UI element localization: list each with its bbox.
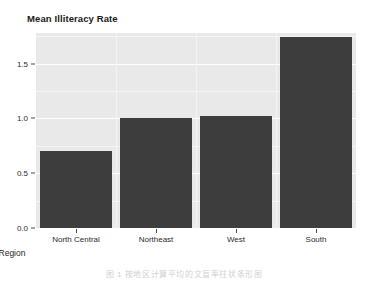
plot-panel [36, 33, 356, 228]
figure-caption: 图 1 按地区计算平均的文盲率柱状条形图 [0, 268, 368, 282]
y-tick-mark [31, 228, 35, 229]
x-tick-mark [236, 229, 237, 233]
bar-south[interactable] [280, 37, 352, 228]
y-tick-mark [31, 118, 35, 119]
x-tick-label: South [306, 235, 327, 244]
y-tick-label: 1.5 [17, 59, 28, 68]
x-tick-mark [316, 229, 317, 233]
y-tick-mark [31, 173, 35, 174]
y-tick-label: 0.0 [17, 224, 28, 233]
x-tick-label: West [227, 235, 245, 244]
x-tick-mark [76, 229, 77, 233]
y-tick-mark [31, 63, 35, 64]
gridline-vertical [116, 33, 117, 228]
page-title: Mean Illiteracy Rate [27, 13, 118, 24]
bar-north-central[interactable] [40, 151, 112, 228]
x-axis-title: Region [0, 248, 368, 258]
x-tick-label: Northeast [139, 235, 174, 244]
bar-west[interactable] [200, 116, 272, 228]
y-axis: 0.00.51.01.5 [0, 0, 28, 282]
y-tick-label: 1.0 [17, 114, 28, 123]
gridline-vertical [196, 33, 197, 228]
x-tick-label: North Central [52, 235, 100, 244]
gridline-vertical [276, 33, 277, 228]
x-tick-mark [156, 229, 157, 233]
y-tick-label: 0.5 [17, 169, 28, 178]
x-axis-title-label: Region [0, 248, 25, 258]
bar-northeast[interactable] [120, 118, 192, 228]
chart-figure: Mean Illiteracy Rate 0.00.51.01.5 North … [0, 0, 368, 282]
